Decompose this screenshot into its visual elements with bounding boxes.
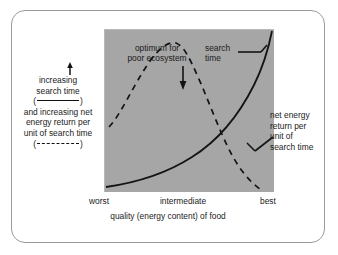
optimum-line-1: optimum for — [135, 43, 179, 53]
legend-dashed-line-icon — [37, 143, 79, 144]
x-tick-label-intermediate: intermediate — [160, 196, 206, 206]
optimum-arrow-icon — [180, 66, 187, 90]
annotation-net-energy: net energy return per unit of search tim… — [270, 110, 332, 152]
legend-key-dashed: () — [12, 139, 104, 150]
y-axis-description: increasing search time () and increasing… — [12, 62, 104, 149]
legend-dashed-close-paren: ) — [80, 139, 83, 149]
net-energy-line-1: net energy — [270, 110, 310, 120]
net-energy-line-2: return per — [270, 121, 306, 131]
y-note-line-4: energy return per — [12, 117, 104, 128]
y-note-line-3: and increasing net — [12, 107, 104, 118]
search-time-line-1: search — [205, 43, 230, 53]
y-note-line-5: unit of search time — [12, 128, 104, 139]
figure-container: increasing search time () and increasing… — [0, 0, 338, 255]
annotation-optimum: optimum for poor ecosystem — [118, 43, 196, 64]
x-tick-label-worst: worst — [89, 196, 109, 206]
y-note-line-2: search time — [12, 86, 104, 97]
legend-dashed-open-paren: ( — [33, 139, 36, 149]
x-axis-caption: quality (energy content) of food — [11, 211, 325, 221]
x-tick-label-best: best — [260, 196, 276, 206]
optimum-line-2: poor ecosystem — [127, 53, 186, 63]
search-time-leader-line — [238, 45, 267, 52]
increasing-up-arrow-icon — [12, 62, 104, 76]
legend-solid-close-paren: ) — [80, 96, 83, 106]
net-energy-line-3: unit of — [270, 131, 293, 141]
legend-solid-open-paren: ( — [33, 96, 36, 106]
net-energy-line-4: search time — [270, 142, 313, 152]
y-note-line-1: increasing — [12, 75, 104, 86]
search-time-line-2: time — [205, 53, 221, 63]
curve-net-energy-return — [109, 43, 260, 189]
legend-key-solid: () — [12, 96, 104, 107]
legend-solid-line-icon — [37, 100, 79, 101]
annotation-search-time: search time — [205, 43, 239, 64]
